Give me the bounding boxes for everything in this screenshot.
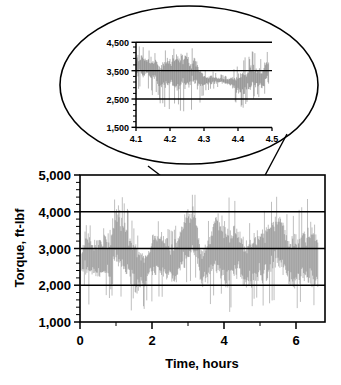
inset-xtick-label-4-3: 4.3 bbox=[198, 134, 211, 144]
inset-xtick-label-4-1: 4.1 bbox=[130, 134, 143, 144]
main-xtick-label-6: 6 bbox=[292, 333, 299, 348]
x-axis-title: Time, hours bbox=[165, 356, 238, 371]
inset-ytick-label-1500: 1,500 bbox=[106, 123, 129, 133]
y-axis-title: Torque, ft-lbf bbox=[12, 208, 27, 288]
inset-ytick-label-2500: 2,500 bbox=[106, 95, 129, 105]
main-ytick-label-3000: 3,000 bbox=[38, 242, 71, 257]
inset-xtick-label-4-4: 4.4 bbox=[232, 134, 245, 144]
main-ytick-label-2000: 2,000 bbox=[38, 278, 71, 293]
inset-xtick-label-4-5: 4.5 bbox=[266, 134, 279, 144]
main-ytick-label-1000: 1,000 bbox=[38, 315, 71, 330]
main-ytick-label-4000: 4,000 bbox=[38, 205, 71, 220]
main-ytick-label-5000: 5,000 bbox=[38, 168, 71, 183]
main-xtick-label-2: 2 bbox=[148, 333, 155, 348]
torque-vs-time-figure: 4,500 3,500 2,500 1,500 4.1 4.2 4.3 4.4 … bbox=[0, 0, 341, 385]
inset-ytick-label-4500: 4,500 bbox=[106, 38, 129, 48]
inset-xtick-label-4-2: 4.2 bbox=[164, 134, 177, 144]
main-xtick-label-4: 4 bbox=[220, 333, 228, 348]
main-xtick-label-0: 0 bbox=[76, 333, 83, 348]
inset-ytick-label-3500: 3,500 bbox=[106, 67, 129, 77]
